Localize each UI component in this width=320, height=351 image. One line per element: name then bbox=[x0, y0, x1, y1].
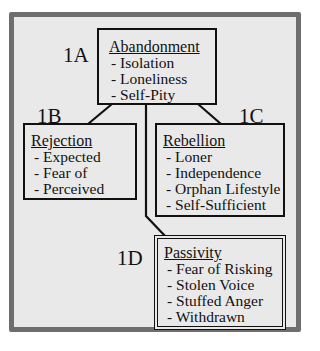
node-abandonment: Abandonment - Isolation - Loneliness - S… bbox=[97, 28, 217, 105]
edge-1a-1b bbox=[88, 104, 112, 124]
node-item: - Fear of bbox=[31, 165, 135, 181]
node-item: - Withdrawn bbox=[164, 309, 282, 325]
node-title: Rejection bbox=[31, 132, 135, 149]
node-title: Abandonment bbox=[109, 38, 215, 55]
node-item: - Isolation bbox=[109, 55, 215, 71]
node-item: - Fear of Risking bbox=[164, 261, 282, 277]
node-item: - Loner bbox=[163, 149, 283, 165]
node-label-1a: 1A bbox=[63, 44, 89, 66]
node-label-1d: 1D bbox=[117, 247, 143, 269]
node-item: - Loneliness bbox=[109, 71, 215, 87]
node-passivity: Passivity - Fear of Risking - Stolen Voi… bbox=[154, 235, 286, 330]
edge-1a-1c bbox=[198, 104, 221, 124]
node-item: - Self-Pity bbox=[109, 87, 215, 103]
node-item: - Perceived bbox=[31, 181, 135, 197]
node-title: Passivity bbox=[164, 244, 282, 261]
node-item: - Stuffed Anger bbox=[164, 293, 282, 309]
node-title: Rebellion bbox=[163, 132, 283, 149]
node-item: - Independence bbox=[163, 165, 283, 181]
node-rebellion: Rebellion - Loner - Independence - Orpha… bbox=[155, 123, 285, 217]
node-rejection: Rejection - Expected - Fear of - Perceiv… bbox=[23, 123, 137, 200]
node-item: - Self-Sufficient bbox=[163, 197, 283, 213]
node-item: - Expected bbox=[31, 149, 135, 165]
node-item: - Orphan Lifestyle bbox=[163, 181, 283, 197]
node-item: - Stolen Voice bbox=[164, 277, 282, 293]
